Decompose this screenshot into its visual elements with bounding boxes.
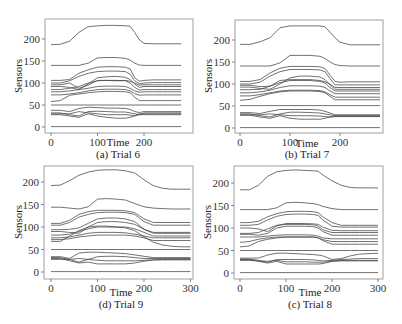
x-tick-label: 0 [237,282,243,294]
series-layer [51,170,191,272]
sensor-line-s2 [240,55,380,66]
x-axis-label: Time [107,136,130,148]
y-tick-label: 0 [35,121,41,133]
y-tick-label: 0 [34,266,40,278]
sensor-line-s12 [51,252,191,258]
y-tick-label: 0 [224,267,230,279]
y-tick-label: 150 [213,200,230,212]
sensor-line-s2 [51,58,181,66]
y-tick-label: 50 [28,244,40,256]
x-tick-label: 300 [370,282,387,294]
y-tick-label: 100 [213,222,230,234]
panel-caption: (d) Trial 9 [99,298,144,311]
panel-c: 0501001502000100200300 Time Sensors (c) … [201,166,387,311]
sensor-line-s3 [51,67,181,82]
y-tick-label: 150 [23,199,40,211]
y-tick-label: 150 [214,56,231,68]
x-tick-label: 0 [48,282,54,294]
sensor-line-s2 [240,202,378,209]
x-tick-label: 100 [278,282,295,294]
sensor-line-s9 [240,237,378,242]
panel-d: 0501001502000100200300 Time Sensors (d) … [12,166,199,311]
y-tick-label: 200 [214,34,231,46]
x-tick-label: 100 [89,282,106,294]
y-tick-label: 0 [225,122,231,134]
sensor-line-s4 [240,70,380,85]
y-tick-label: 100 [24,77,41,89]
y-tick-label: 100 [23,221,40,233]
x-tick-label: 200 [332,136,349,148]
sensor-line-s1 [240,170,378,190]
sensor-line-s1 [51,25,181,44]
panel-caption: (a) Trial 6 [96,148,141,161]
x-axis-label: Time [299,286,322,298]
y-tick-label: 50 [29,99,41,111]
figure: 0501001502000100200 Time Sensors (a) Tri… [0,0,402,324]
y-tick-label: 100 [214,78,231,90]
x-axis-label: Time [110,286,133,298]
y-axis-label: Sensors [12,59,24,93]
y-tick-label: 50 [219,100,231,112]
sensor-line-s5 [51,80,181,88]
panel-b: 0501001502000100200 Time Sensors (b) Tri… [202,20,383,161]
y-axis-label: Sensors [201,205,213,239]
y-tick-label: 50 [218,245,230,257]
series-layer [240,170,378,273]
y-tick-label: 200 [24,33,41,45]
series-layer [240,26,380,128]
sensor-line-s1 [240,26,380,45]
y-tick-label: 150 [24,55,41,67]
panel-a: 0501001502000100200 Time Sensors (a) Tri… [12,19,193,161]
sensor-line-s10 [51,91,181,101]
x-tick-label: 300 [182,282,199,294]
y-axis-label: Sensors [12,205,24,239]
series-layer [51,25,181,126]
x-tick-label: 200 [136,136,153,148]
x-tick-label: 0 [48,136,54,148]
y-tick-label: 200 [213,177,230,189]
x-tick-label: 200 [324,282,341,294]
sensor-line-s1 [51,170,191,189]
sensor-line-s2 [51,199,191,209]
panel-caption: (b) Trial 7 [285,148,330,161]
sensor-line-s10 [240,91,380,100]
sensor-line-s4 [51,71,181,84]
panel-caption: (c) Trial 8 [288,298,333,311]
x-tick-label: 0 [237,136,243,148]
x-tick-label: 200 [136,282,153,294]
x-tick-label: 100 [89,136,106,148]
y-axis-label: Sensors [202,59,214,93]
y-tick-label: 200 [23,176,40,188]
